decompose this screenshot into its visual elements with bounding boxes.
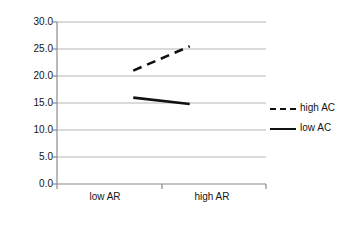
series-line-high-ac xyxy=(133,46,189,70)
legend: high AC low AC xyxy=(270,100,348,140)
x-axis-ticks xyxy=(57,184,266,189)
legend-label: low AC xyxy=(300,122,331,134)
x-tick-label-low-ar: low AR xyxy=(79,191,131,202)
legend-solid-line-swatch xyxy=(270,128,296,130)
legend-item-high-ac: high AC xyxy=(270,100,348,120)
legend-dashed-line-swatch xyxy=(270,108,296,110)
gridlines xyxy=(57,22,266,157)
x-tick-label-high-ar: high AR xyxy=(184,191,240,202)
legend-label: high AC xyxy=(300,102,335,114)
interaction-plot: relative frequency (MAJ) 30.0 25.0 20.0 … xyxy=(0,0,348,225)
legend-item-low-ac: low AC xyxy=(270,120,348,140)
